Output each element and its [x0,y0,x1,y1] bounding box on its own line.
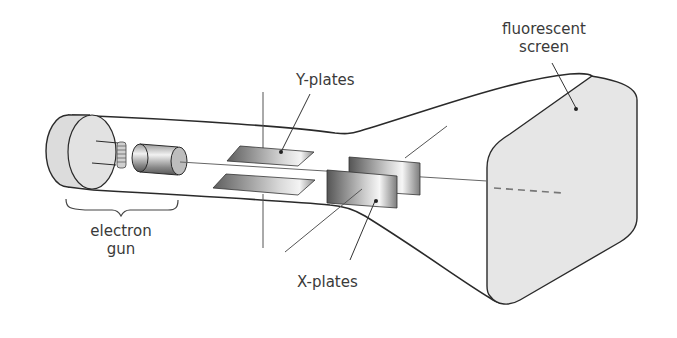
fluorescent-screen-label: fluorescent screen [494,20,594,56]
electron-gun-brace [66,199,178,216]
fluorescent-screen-label-line2: screen [494,38,594,56]
anode-cylinder [132,144,187,175]
fluorescent-screen [487,76,637,304]
y-plates [213,92,315,248]
y-plates-label: Y-plates [296,71,355,89]
electron-gun-label-line1: electron [76,222,166,240]
x-plates [285,126,447,260]
electron-gun-label: electron gun [76,222,166,258]
electron-gun-base [46,115,126,190]
electron-gun-label-line2: gun [76,240,166,258]
fluorescent-screen-label-line1: fluorescent [494,20,594,38]
x-plates-label: X-plates [297,273,358,291]
